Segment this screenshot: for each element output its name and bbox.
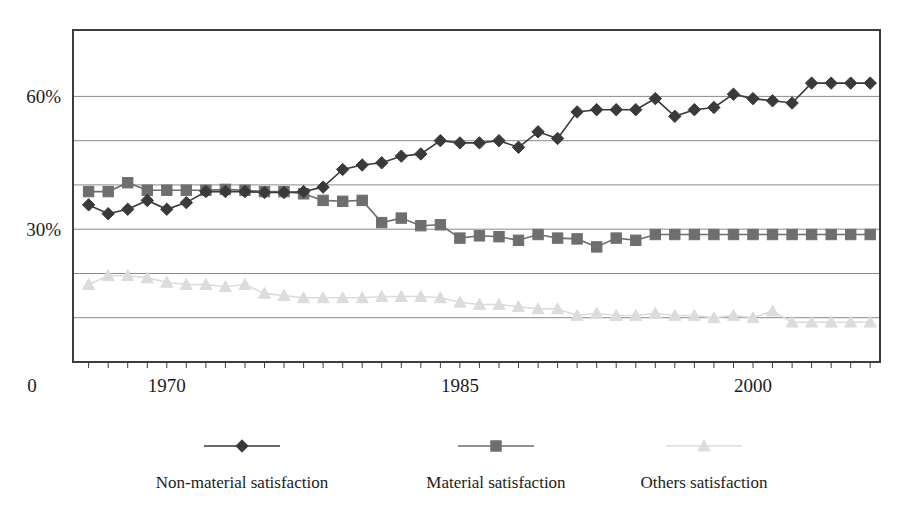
data-point-marker (123, 178, 133, 188)
data-point-marker (787, 229, 797, 239)
data-point-marker (611, 233, 621, 243)
legend-label: Others satisfaction (641, 473, 768, 492)
data-point-marker (728, 229, 738, 239)
data-point-marker (103, 186, 113, 196)
data-point-marker (826, 229, 836, 239)
data-point-marker (162, 185, 172, 195)
data-point-marker (592, 242, 602, 252)
data-point-marker (513, 235, 523, 245)
data-point-marker (494, 232, 504, 242)
data-point-marker (689, 229, 699, 239)
data-point-marker (377, 217, 387, 227)
data-point-marker (181, 185, 191, 195)
data-point-marker (865, 229, 875, 239)
data-point-marker (435, 220, 445, 230)
data-point-marker (670, 229, 680, 239)
data-point-marker (846, 229, 856, 239)
legend-label: Non-material satisfaction (156, 473, 329, 492)
data-point-marker (338, 196, 348, 206)
origin-label: 0 (27, 375, 37, 396)
origin-label-group: 0 (27, 375, 37, 396)
y-axis-tick-label: 60% (26, 86, 61, 107)
data-point-marker (455, 233, 465, 243)
line-chart: 30%60% 197019852000 0 Non-material satis… (0, 0, 912, 517)
data-point-marker (83, 186, 93, 196)
data-point-marker (806, 229, 816, 239)
data-point-marker (552, 233, 562, 243)
data-point-marker (631, 235, 641, 245)
chart-container: 30%60% 197019852000 0 Non-material satis… (0, 0, 912, 517)
data-point-marker (396, 213, 406, 223)
x-axis-tick-label: 2000 (734, 375, 772, 396)
data-point-marker (767, 229, 777, 239)
data-point-marker (416, 221, 426, 231)
data-point-marker (533, 229, 543, 239)
data-point-marker (318, 195, 328, 205)
data-point-marker (572, 234, 582, 244)
y-axis-tick-label: 30% (26, 219, 61, 240)
legend-label: Material satisfaction (426, 473, 566, 492)
data-point-marker (748, 229, 758, 239)
data-point-marker (357, 195, 367, 205)
x-axis-tick-label: 1985 (441, 375, 479, 396)
data-point-marker (650, 229, 660, 239)
x-axis-tick-label: 1970 (148, 375, 186, 396)
chart-background (0, 0, 912, 517)
x-axis-ticks (89, 362, 871, 368)
data-point-marker (474, 231, 484, 241)
data-point-marker (709, 229, 719, 239)
data-point-marker (491, 441, 501, 451)
